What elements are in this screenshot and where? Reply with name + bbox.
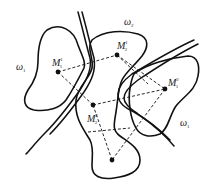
point-M21 <box>115 53 120 58</box>
label-M22: M22 <box>86 113 98 125</box>
label-M11: M11 <box>51 57 63 69</box>
point-M12 <box>163 87 168 92</box>
edge-M12-bottom <box>112 89 165 160</box>
label-omega2: ω2 <box>124 16 134 28</box>
edge-bottom-cross <box>88 128 130 132</box>
figure-canvas: ω1 ω2 ω1 M11 M12 M21 M22 <box>0 0 214 194</box>
label-omega1-right: ω1 <box>180 117 190 129</box>
region-diagram: ω1 ω2 ω1 M11 M12 M21 M22 <box>0 0 214 194</box>
region-omega2 <box>76 32 147 179</box>
boundary-left-1 <box>26 12 91 154</box>
label-omega1-left: ω1 <box>16 61 26 73</box>
edge-M11-M21 <box>58 55 117 72</box>
label-M12: M21 <box>167 77 179 89</box>
point-M11 <box>56 70 61 75</box>
label-M21: M12 <box>116 40 128 52</box>
connection-graph <box>58 55 165 160</box>
point-M22 <box>91 103 96 108</box>
region-omega1-left <box>25 27 85 111</box>
edge-M21-M12 <box>117 55 165 89</box>
point-bottom <box>110 158 115 163</box>
